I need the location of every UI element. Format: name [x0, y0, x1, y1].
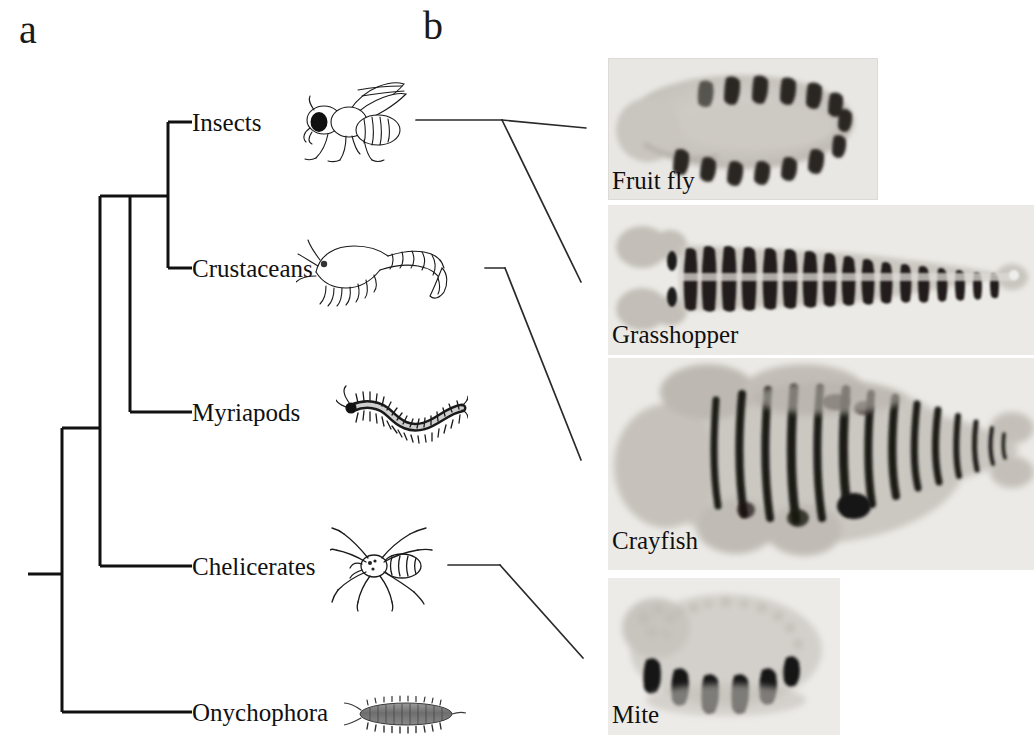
- connector-insects-to-fruitfly: [502, 120, 586, 128]
- panel-letter-b: b: [423, 6, 443, 46]
- taxon-label-chelicerates: Chelicerates: [192, 554, 316, 579]
- micrograph-caption-mite: Mite: [612, 702, 659, 727]
- figure-root: a b: [0, 0, 1034, 754]
- micrograph-mite: Mite: [608, 578, 840, 735]
- micrograph-caption-crayfish: Crayfish: [612, 528, 698, 553]
- connector-chelicerates-to-mite: [500, 565, 583, 658]
- taxon-label-myriapods: Myriapods: [192, 400, 300, 425]
- connector-insects-to-grasshopper: [502, 120, 581, 282]
- micrograph-caption-fruitfly: Fruit fly: [612, 168, 695, 193]
- taxon-label-crustaceans: Crustaceans: [192, 256, 313, 281]
- connector-crustaceans-to-crayfish: [505, 268, 581, 460]
- micrograph-crayfish: Crayfish: [608, 358, 1034, 570]
- taxon-label-insects: Insects: [192, 110, 261, 135]
- micrograph-fruitfly: Fruit fly: [608, 58, 878, 200]
- onychophoran-velvetworm-icon: [344, 692, 466, 736]
- micrograph-caption-grasshopper: Grasshopper: [612, 322, 738, 347]
- micrograph-grasshopper: Grasshopper: [608, 205, 1034, 355]
- insect-fly-icon: [292, 78, 410, 170]
- connector-lines-group: [400, 90, 640, 690]
- taxon-label-onychophora: Onychophora: [192, 700, 328, 725]
